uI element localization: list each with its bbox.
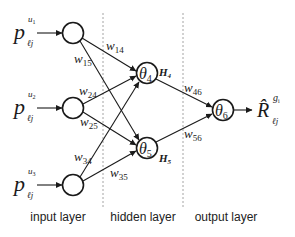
weight-w14: w14 [106,38,124,55]
input-label-3: p u3 ℓj [12,166,36,200]
weight-w56: w56 [184,126,202,143]
svg-text:u2: u2 [28,89,36,100]
output-label: R̂ gi ℓj [256,92,280,126]
weight-w34: w34 [74,149,92,166]
neural-network-diagram: θ4 θ5 θ6 H4 H5 w14 w15 w24 w25 w34 w35 w… [0,0,295,237]
svg-text:u3: u3 [28,166,36,177]
output-layer-label: output layer [195,210,258,224]
svg-text:p: p [12,19,25,44]
svg-text:p: p [12,94,25,119]
diagram-svg: θ4 θ5 θ6 H4 H5 w14 w15 w24 w25 w34 w35 w… [0,0,295,237]
svg-text:p: p [12,171,25,196]
svg-text:ℓj: ℓj [272,116,279,126]
input-label-2: p u2 ℓj [12,89,36,123]
svg-text:ℓj: ℓj [27,113,34,123]
svg-text:R̂: R̂ [256,99,269,121]
hidden-layer-label: hidden layer [110,210,175,224]
weight-w15: w15 [74,51,92,68]
weight-w35: w35 [110,165,128,182]
svg-text:gi: gi [273,92,280,104]
weight-w46: w46 [184,80,202,97]
weight-w25: w25 [80,114,98,131]
input-layer-label: input layer [30,210,85,224]
svg-text:ℓj: ℓj [27,38,34,48]
weight-w24: w24 [79,83,97,100]
h5-label: H5 [158,152,172,166]
h4-label: H4 [158,66,172,80]
input-node-3 [63,175,84,196]
input-node-1 [63,23,84,44]
svg-text:u1: u1 [28,14,36,25]
input-label-1: p u1 ℓj [12,14,36,48]
svg-text:ℓj: ℓj [27,190,34,200]
